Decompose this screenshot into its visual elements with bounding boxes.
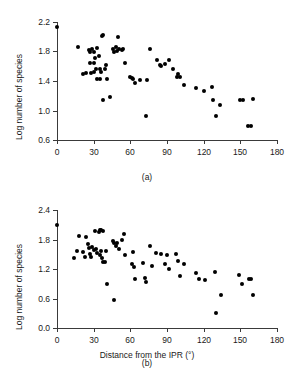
scatter-point: [249, 277, 253, 281]
scatter-point: [108, 95, 112, 99]
scatter-point: [138, 78, 142, 82]
scatter-point: [98, 77, 102, 81]
x-tick-label: 120: [189, 148, 219, 157]
scatter-point: [148, 47, 152, 51]
x-tick: [240, 328, 241, 332]
y-axis-line: [57, 22, 58, 140]
scatter-point: [240, 282, 244, 286]
x-tick: [277, 328, 278, 332]
scatter-point: [115, 241, 119, 245]
scatter-point: [176, 259, 180, 263]
scatter-point: [97, 54, 101, 58]
scatter-point: [202, 89, 206, 93]
x-tick-label: 60: [115, 148, 145, 157]
scatter-point: [218, 103, 222, 107]
y-axis-title-a: Log number of species: [14, 54, 24, 140]
scatter-point: [182, 262, 186, 266]
scatter-point: [165, 253, 169, 257]
x-tick: [277, 140, 278, 144]
x-tick: [57, 140, 58, 144]
scatter-point: [148, 244, 152, 248]
y-axis-title-b: Log number of species: [14, 244, 24, 330]
x-tick-label: 180: [262, 336, 292, 345]
scatter-point: [154, 251, 158, 255]
scatter-point: [101, 229, 105, 233]
scatter-point: [120, 238, 124, 242]
scatter-point: [81, 250, 85, 254]
scatter-point: [105, 282, 109, 286]
scatter-point: [167, 267, 171, 271]
x-tick: [130, 328, 131, 332]
scatter-point: [214, 311, 218, 315]
scatter-point: [194, 271, 198, 275]
scatter-point: [249, 124, 253, 128]
y-tick: [53, 111, 57, 112]
y-tick: [53, 210, 57, 211]
x-tick-label: 150: [225, 148, 255, 157]
scatter-point: [167, 58, 171, 62]
y-tick: [53, 81, 57, 82]
scatter-point: [237, 273, 241, 277]
scatter-point: [251, 293, 255, 297]
scatter-point: [210, 85, 214, 89]
scatter-point: [55, 223, 59, 227]
scatter-point: [150, 264, 154, 268]
scatter-point: [89, 255, 93, 259]
scatter-point: [159, 252, 163, 256]
scatter-point: [203, 278, 207, 282]
scatter-point: [76, 45, 80, 49]
scatter-point: [133, 277, 137, 281]
x-tick-label: 90: [152, 148, 182, 157]
scatter-point: [141, 261, 145, 265]
y-tick-label: 2.2: [17, 18, 50, 27]
x-tick-label: 0: [42, 336, 72, 345]
y-tick: [53, 22, 57, 23]
x-tick: [130, 140, 131, 144]
scatter-point: [163, 262, 167, 266]
y-tick: [53, 299, 57, 300]
scatter-point: [131, 250, 135, 254]
scatter-point: [197, 277, 201, 281]
x-tick: [57, 328, 58, 332]
x-tick: [94, 140, 95, 144]
scatter-point: [122, 232, 126, 236]
x-tick: [167, 328, 168, 332]
x-tick-label: 0: [42, 148, 72, 157]
y-tick: [53, 269, 57, 270]
x-tick: [204, 140, 205, 144]
panel-b: 0.00.61.21.82.40306090120150180 Log numb…: [0, 190, 294, 385]
x-tick: [94, 328, 95, 332]
scatter-point: [219, 293, 223, 297]
scatter-point: [171, 67, 175, 71]
y-tick: [53, 240, 57, 241]
scatter-point: [155, 58, 159, 62]
scatter-point: [77, 234, 81, 238]
y-tick: [53, 51, 57, 52]
scatter-point: [163, 62, 167, 66]
scatter-point: [144, 114, 148, 118]
scatter-point: [95, 46, 99, 50]
scatter-point: [144, 280, 148, 284]
scatter-point: [213, 270, 217, 274]
panel-a-label: (a): [0, 172, 294, 182]
x-tick-label: 150: [225, 336, 255, 345]
x-tick-label: 180: [262, 148, 292, 157]
x-tick: [167, 140, 168, 144]
scatter-point: [84, 71, 88, 75]
x-tick-label: 90: [152, 336, 182, 345]
scatter-point: [123, 61, 127, 65]
scatter-point: [83, 255, 87, 259]
x-tick-label: 30: [79, 148, 109, 157]
scatter-point: [178, 274, 182, 278]
scatter-point: [103, 260, 107, 264]
scatter-point: [84, 235, 88, 239]
scatter-point: [101, 98, 105, 102]
scatter-point: [174, 252, 178, 256]
scatter-point: [99, 249, 103, 253]
scatter-point: [131, 77, 135, 81]
x-tick: [240, 140, 241, 144]
scatter-point: [133, 81, 137, 85]
scatter-point: [112, 298, 116, 302]
scatter-point: [92, 50, 96, 54]
scatter-point: [182, 83, 186, 87]
